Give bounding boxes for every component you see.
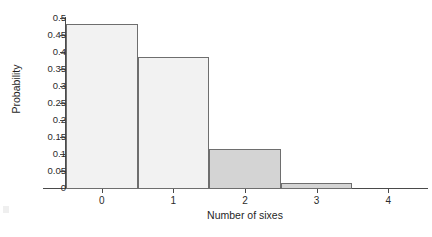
x-tick-mark [317,189,318,193]
y-axis-title: Probability [10,34,22,144]
x-tick-mark [102,189,103,193]
bar-0 [66,24,138,189]
page-artifact-mark [3,206,9,213]
y-tick-label: 0.2 [22,115,66,125]
y-tick-label: 0.1 [22,149,66,159]
probability-bar-chart: Probability 00.050.10.150.20.250.30.350.… [0,0,432,237]
y-tick-label: 0.25 [22,98,66,108]
x-axis-title: Number of sixes [66,209,424,221]
y-tick-label: 0.05 [22,166,66,176]
plot-area: Probability 00.050.10.150.20.250.30.350.… [0,0,432,237]
x-tick-label-2: 2 [225,195,265,207]
y-tick-label: 0 [22,183,66,193]
x-tick-mark [173,189,174,193]
x-tick-label-1: 1 [153,195,193,207]
y-tick-label: 0.45 [22,30,66,40]
y-tick-label: 0.35 [22,64,66,74]
x-tick-mark [388,189,389,193]
x-tick-label-3: 3 [297,195,337,207]
y-tick-label: 0.15 [22,132,66,142]
bar-2 [209,149,281,189]
y-tick-label: 0.4 [22,47,66,57]
bar-1 [138,57,210,189]
y-tick-label: 0.3 [22,81,66,91]
x-tick-label-0: 0 [82,195,122,207]
x-tick-mark [245,189,246,193]
x-tick-label-4: 4 [368,195,408,207]
y-tick-label: 0.5 [22,13,66,23]
